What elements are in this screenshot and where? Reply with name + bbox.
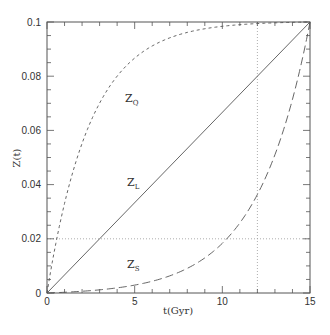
curve-labels: ZQZLZS [125, 92, 140, 273]
curve-label-z-s: ZS [127, 258, 140, 273]
y-tick-label: 0.02 [22, 233, 42, 244]
curves [47, 22, 310, 293]
x-tick-label: 5 [132, 296, 138, 307]
y-tick-label: 0.04 [22, 179, 42, 190]
y-tick-label: 0.08 [22, 71, 42, 82]
curve-z-l [47, 22, 310, 293]
chart: 05101500.020.040.060.080.1 t(Gyr) Z(t) Z… [0, 0, 330, 335]
x-tick-label: 10 [217, 296, 229, 307]
x-tick-label: 15 [304, 296, 316, 307]
y-axis-title: Z(t) [11, 149, 22, 168]
y-tick-label: 0 [35, 288, 41, 299]
y-tick-label: 0.1 [27, 17, 41, 28]
x-axis-title: t(Gyr) [163, 305, 193, 316]
x-tick-label: 0 [44, 296, 50, 307]
curve-label-z-q: ZQ [125, 92, 139, 107]
y-tick-label: 0.06 [22, 125, 42, 136]
curve-label-z-l: ZL [127, 176, 140, 191]
